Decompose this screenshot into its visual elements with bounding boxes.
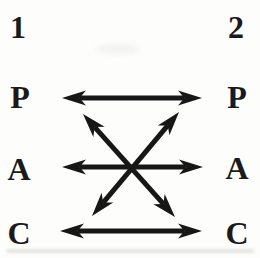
person2-label: 2 — [228, 11, 244, 43]
person1-label: 1 — [10, 11, 26, 43]
person2-state-adult: A — [225, 152, 248, 184]
person1-state-child: C — [7, 217, 30, 249]
ta-diagram-figure: 1 2 P A C P A C — [0, 0, 260, 258]
person2-state-child: C — [225, 217, 248, 249]
arrow-1c-2c — [60, 223, 202, 238]
scan-smudge-bottom — [6, 249, 254, 253]
person1-state-adult: A — [7, 153, 30, 185]
person2-state-parent: P — [227, 81, 247, 113]
arrows-layer — [0, 0, 260, 258]
person1-state-parent: P — [10, 81, 30, 113]
scan-smudge-faint — [96, 44, 140, 54]
arrow-1p-2p — [62, 90, 202, 105]
